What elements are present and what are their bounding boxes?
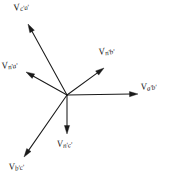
phasor-label-6: Vb'c' <box>8 161 24 174</box>
phasor-arrowhead <box>129 92 138 97</box>
phasor-label-4: Va'b' <box>140 81 157 94</box>
phasor-label-5: Vn'c' <box>56 138 72 150</box>
phasor-arrowhead <box>24 149 31 157</box>
vectors-group <box>24 24 138 157</box>
phasor-label-subscript: n'c' <box>63 141 73 150</box>
phasor-arrowhead <box>64 126 69 135</box>
phasor-vector-line <box>67 94 132 95</box>
phasor-label-subscript: n'b' <box>104 48 115 58</box>
phasor-arrowhead <box>28 24 34 33</box>
phasor-vector-line <box>67 72 99 95</box>
phasor-label-subscript: a'b' <box>146 83 157 92</box>
phasor-label-subscript: b'c' <box>14 163 24 172</box>
phasor-arrowhead <box>26 72 35 78</box>
phasor-arrowhead <box>96 68 104 75</box>
phasor-label-subscript: n'a' <box>7 62 18 72</box>
phasor-diagram-figure: Vc'a'Vn'a'Vn'b'Va'b'Vn'c'Vb'c' <box>0 0 175 182</box>
